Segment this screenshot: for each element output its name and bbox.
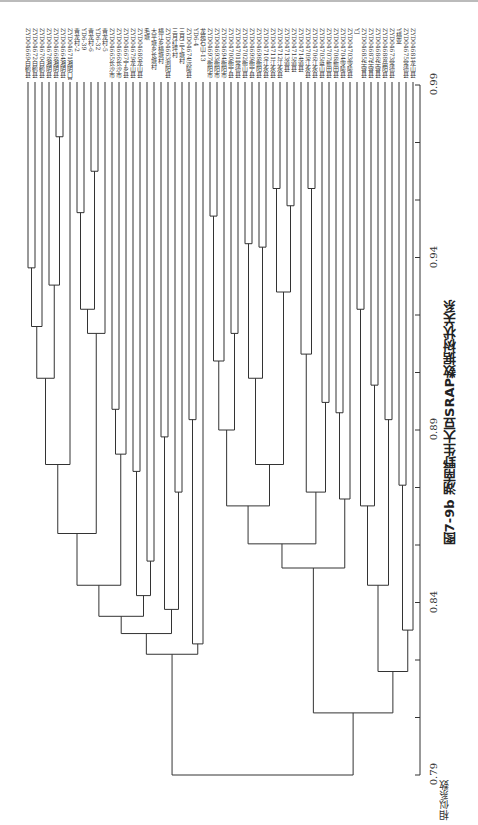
dendrogram — [0, 0, 478, 825]
leaf-label: ZYD04674沅陵县 — [186, 28, 193, 80]
leaf-label: YJ — [354, 28, 361, 80]
leaf-label: YD6-32 — [95, 28, 102, 80]
leaf-label: ZYD04675常德县 — [403, 28, 410, 80]
leaf-label: ZYD04704零陵县 — [340, 28, 347, 80]
axis-tick-label: 0.99 — [428, 73, 439, 95]
leaf-label: ZYD04671湘阴口县 — [67, 28, 74, 80]
leaf-label: ZYD04713道县 — [284, 28, 291, 80]
leaf-label: ZYD04664湘阴县 — [60, 28, 67, 80]
leaf-label: ZYD04668湘阴县 — [53, 28, 60, 80]
leaf-label: ZYD04694衡阳市 — [221, 28, 228, 80]
leaf-label: 青龙村-5 — [102, 28, 109, 80]
leaf-label: ZYD04710江永县 — [263, 28, 270, 80]
leaf-label: Y横亚 — [396, 28, 403, 80]
leaf-label: ZYD04706江永县 — [312, 28, 319, 80]
leaf-label: ZYD04707新田县 — [326, 28, 333, 80]
leaf-label: ZYD04670白鹤县 — [39, 28, 46, 80]
leaf-label: ZYD04667宁乡县 — [123, 28, 130, 80]
leaf-label: 大平塘乡长塘村 — [151, 28, 158, 80]
leaf-label: ZYD04701常德县 — [235, 28, 242, 80]
leaf-label: 毛塘 — [144, 28, 151, 80]
leaf-label: ZYD04699衡宁县 — [249, 28, 256, 80]
leaf-label: ZYD04698衡阳县 — [256, 28, 263, 80]
leaf-label: ZYD04665长沙市 — [109, 28, 116, 80]
leaf-label: ZYD04673常德县 — [389, 28, 396, 80]
leaf-label: 三月三下塘村 — [179, 28, 186, 80]
leaf-label: ZYD04688岳阳县 — [382, 28, 389, 80]
leaf-label: 龙苑石山-13 — [200, 28, 207, 80]
leaf-label: ZYD04681龙山县 — [410, 28, 417, 80]
leaf-label: ZYD04693衡阳市 — [214, 28, 221, 80]
leaf-label: ZYD04703零陵县 — [347, 28, 354, 80]
axis-tick-label: 0.84 — [428, 591, 439, 613]
axis-title: 相似系数 — [437, 780, 452, 820]
axis-tick-label: 0.94 — [428, 246, 439, 268]
leaf-label: ZYD04678湘阴县 — [46, 28, 53, 80]
leaf-label: 青龙村-6 — [88, 28, 95, 80]
leaf-label: ZYD04666长沙市 — [116, 28, 123, 80]
leaf-label: ZYD04702衡山县 — [242, 28, 249, 80]
leaf-label: ZYD04679龙山县 — [130, 28, 137, 80]
leaf-label: ZYD04687华容县 — [368, 28, 375, 80]
leaf-label: 青龙村-2 — [74, 28, 81, 80]
leaf-label: ZYD04685华容县 — [361, 28, 368, 80]
leaf-label: ZYD04715道县 — [291, 28, 298, 80]
leaf-label: 三月红坪村 — [172, 28, 179, 80]
leaf-label: ZYD04686华容县 — [375, 28, 382, 80]
leaf-label: YD6-39 — [81, 28, 88, 80]
leaf-label: ZYD04663浏阳县 — [165, 28, 172, 80]
leaf-label: YD6-4 — [193, 28, 200, 80]
leaf-label: ZYD04709江永县 — [305, 28, 312, 80]
leaf-label: ZYD04714道县 — [298, 28, 305, 80]
leaf-label: ZYD04697衡阳市 — [207, 28, 214, 80]
leaf-label: ZYD04680龙山县 — [137, 28, 144, 80]
leaf-label: ZYD04708新田县 — [333, 28, 340, 80]
figure-caption: 图7-9b 湖南野生大豆SRAP数据树状关系 — [440, 300, 459, 545]
leaf-label: ZYD04672白鹤县 — [32, 28, 39, 80]
leaf-label: 横江乡横塘村 — [158, 28, 165, 80]
leaf-label: ZYD04712江永县 — [277, 28, 284, 80]
leaf-label: ZYD04705蓝山县 — [319, 28, 326, 80]
leaf-label: ZYD04669白鹤县 — [25, 28, 32, 80]
axis-tick-label: 0.89 — [428, 418, 439, 440]
leaf-label: ZYD04700衡宁县 — [228, 28, 235, 80]
leaf-label: ZYD04711江永县 — [270, 28, 277, 80]
